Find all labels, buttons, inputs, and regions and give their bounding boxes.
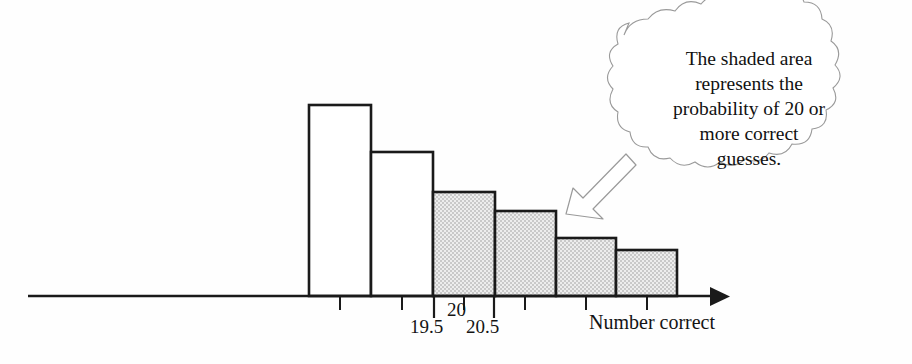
x-tick-label-19-5: 19.5 (410, 316, 443, 338)
callout-line-1: The shaded area (611, 46, 887, 71)
histogram-figure: 19.5 20 20.5 Number correct The shaded a… (0, 0, 912, 364)
x-tick-label-20: 20 (447, 299, 466, 321)
bar-21 (556, 238, 616, 296)
callout-text-block: The shaded area represents the probabili… (611, 46, 887, 171)
callout-line-3: probability of 20 or (611, 96, 887, 121)
bar-group-unshaded (309, 105, 433, 296)
bar-17 (309, 105, 371, 296)
bar-group-shaded (433, 192, 677, 296)
callout-line-5: guesses. (611, 146, 887, 171)
bar-18 (371, 152, 433, 296)
bar-20 (495, 211, 556, 296)
axis-arrowhead (710, 287, 730, 306)
bar-22 (616, 250, 677, 296)
x-axis-title: Number correct (589, 311, 715, 334)
callout-line-2: represents the (611, 71, 887, 96)
callout-line-4: more correct (611, 121, 887, 146)
x-tick-label-20-5: 20.5 (466, 316, 499, 338)
bar-19 (433, 192, 495, 296)
